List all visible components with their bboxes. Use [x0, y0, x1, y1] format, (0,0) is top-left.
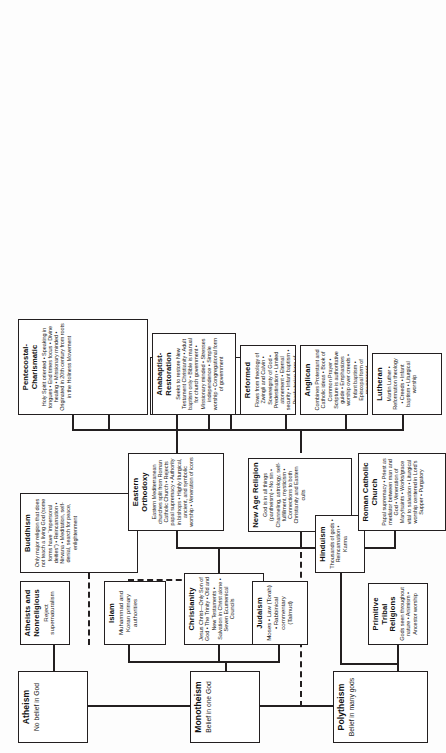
node-title: New Age Religion: [252, 462, 261, 528]
node-desc: Thousands of gods • Reincarnation • Karm…: [329, 519, 348, 569]
node-title: Roman Catholic Church: [362, 457, 379, 527]
connector-to-protestantism: [300, 531, 302, 549]
node-buddhism[interactable]: Buddhism Only major religion that does n…: [20, 493, 138, 573]
node-title: Judaism: [256, 585, 265, 641]
node-title: Hinduism: [319, 519, 328, 569]
node-desc: God is in all things (pantheism) • No si…: [262, 462, 306, 528]
node-title: Anglican: [304, 349, 313, 411]
node-title: Buddhism: [24, 497, 33, 569]
connector-judaism: [278, 645, 280, 663]
node-title: Monotheism: [194, 675, 204, 739]
node-eastern-orthodoxy[interactable]: Eastern Orthodoxy Eastern Mediterranean …: [128, 453, 224, 531]
node-lutheran[interactable]: Lutheran Martin Luther • Reformation the…: [372, 353, 442, 415]
node-desc: Moses • Law (Torah) • Rabbinical comment…: [266, 585, 294, 641]
node-islam[interactable]: Islam Muhammad and Koran primary authori…: [104, 581, 166, 645]
node-desc: Holy Spirit oriented • Speaking in tongu…: [41, 323, 72, 411]
node-roman-catholic[interactable]: Roman Catholic Church Papal supremacy • …: [358, 453, 446, 531]
node-atheism[interactable]: Atheism No belief in God: [18, 671, 88, 743]
connector-dashed-atheism-buddhism: [88, 573, 90, 645]
connector-protestantism-out: [300, 431, 302, 453]
node-title: Atheists and Nonreligious: [24, 585, 41, 641]
node-polytheism[interactable]: Polytheism Belief in many gods: [333, 671, 428, 743]
connector-polytheism-bus: [340, 663, 398, 665]
connector-to-anabaptist: [208, 415, 210, 431]
node-title: Reformed: [244, 349, 253, 411]
node-desc: Seeks to restore New Testament Christian…: [175, 337, 225, 411]
connector-monotheism-bus: [128, 661, 278, 663]
node-desc: Jesus Christ—Only Son of God • The Trini…: [198, 577, 236, 641]
node-atheists-nonreligious[interactable]: Atheists and Nonreligious Reject superna…: [20, 581, 70, 645]
node-desc: Belief in many gods: [348, 675, 356, 739]
node-anglican[interactable]: Anglican Combines Protestant and Catholi…: [300, 345, 368, 415]
node-title: Lutheran: [376, 357, 385, 411]
node-desc: Eastern Mediterranean churches split fro…: [151, 457, 195, 527]
node-title: Polytheism: [337, 675, 347, 739]
node-judaism[interactable]: Judaism Moses • Law (Torah) • Rabbinical…: [252, 581, 308, 645]
node-title: Islam: [108, 585, 117, 641]
connector-to-pentecostal: [72, 415, 74, 431]
connector-to-eastern-orthodoxy: [176, 531, 178, 549]
node-desc: Flows from theology of Zwingli and Calvi…: [254, 349, 296, 411]
node-desc: Reject supernaturalism: [43, 585, 57, 641]
node-title: Atheism: [22, 675, 32, 739]
node-desc: Muhammad and Koran primary authorities: [118, 585, 139, 641]
connector-christianity-out: [218, 549, 220, 573]
connector-to-lutheran: [402, 415, 404, 431]
node-desc: Papal supremacy • Priest as mediator bet…: [381, 457, 425, 527]
connector-to-reformed: [285, 415, 287, 431]
connector-hinduism: [340, 573, 342, 665]
node-monotheism[interactable]: Monotheism Belief in one God: [190, 671, 260, 743]
connector-to-roman-catholic: [394, 531, 396, 549]
connector-atheists-nonreligious: [53, 645, 55, 663]
connector-islam: [128, 645, 130, 663]
node-pentecostal[interactable]: Pentecostal-Charismatic Holy Spirit orie…: [18, 319, 148, 415]
node-title: Pentecostal-Charismatic: [22, 323, 39, 411]
connector-to-anglican: [345, 415, 347, 431]
node-desc: Combines Protestant and Catholic ideas •…: [314, 349, 368, 411]
node-title: Christianity: [188, 577, 197, 641]
node-reformed[interactable]: Reformed Flows from theology of Zwingli …: [240, 345, 296, 415]
node-anabaptist-restoration[interactable]: Anabaptist-Restoration Seeks to restore …: [152, 333, 236, 415]
node-desc: Belief in one God: [205, 675, 213, 739]
node-desc: No belief in God: [33, 675, 41, 739]
connector-primitive-tribal: [397, 645, 399, 665]
node-desc: Only major religion that does not teach …: [34, 497, 78, 569]
connector-protestantism-bus: [72, 429, 402, 431]
node-title: Anabaptist-Restoration: [156, 337, 173, 411]
connector-christianity: [218, 645, 220, 663]
connector-eo-out: [176, 431, 178, 453]
node-title: Eastern Orthodoxy: [132, 457, 149, 527]
node-desc: Gods seen throughout nature • Animism • …: [399, 587, 418, 641]
node-primitive-tribal-religions[interactable]: Primitive Tribal Religions Gods seen thr…: [368, 583, 428, 645]
node-desc: Martin Luther • Reformation theology • C…: [386, 357, 417, 411]
node-title: Primitive Tribal Religions: [372, 587, 398, 641]
